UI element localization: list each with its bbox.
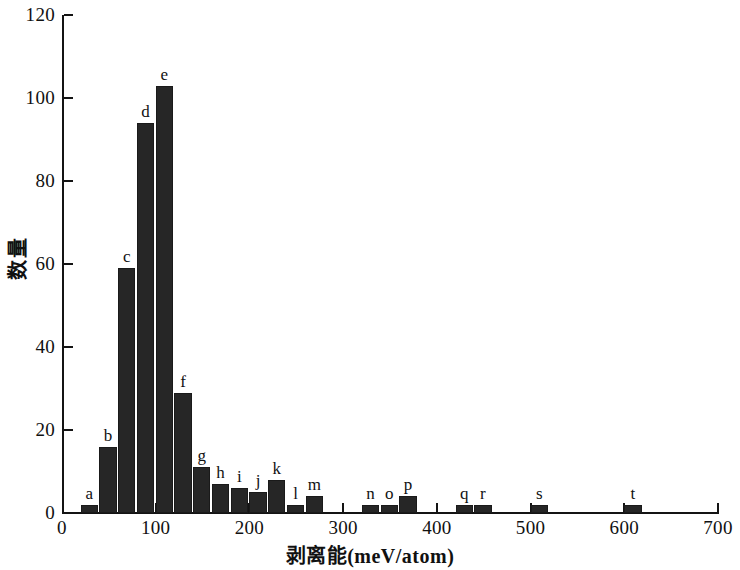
histogram-bar [81,505,98,513]
x-tick-mark [717,503,719,512]
histogram-bar [156,86,173,513]
y-axis-title: 数量 [2,228,31,288]
y-tick-label: 120 [0,5,55,24]
x-tick-label: 500 [496,518,566,538]
bar-label: g [182,447,222,464]
y-tick-mark [64,263,73,265]
x-tick-label: 100 [121,518,191,538]
y-tick-mark [64,97,73,99]
y-tick-mark [64,429,73,431]
histogram-bar [212,484,229,513]
histogram-bar [381,505,398,513]
bar-label: r [463,485,503,502]
histogram-bar [99,447,116,513]
x-tick-label: 400 [402,518,472,538]
y-tick-label: 20 [0,420,55,439]
histogram-bar [306,496,323,513]
x-tick-mark [342,503,344,512]
histogram-bar [231,488,248,513]
bar-label: k [257,460,297,477]
histogram-bar [137,123,154,513]
histogram-bar [287,505,304,513]
bar-label: f [163,373,203,390]
y-tick-mark [64,512,73,514]
histogram-bar [531,505,548,513]
histogram-bar [474,505,491,513]
y-tick-label: 40 [0,337,55,356]
x-tick-label: 300 [308,518,378,538]
y-tick-label: 100 [0,88,55,107]
x-tick-label: 200 [214,518,284,538]
exfoliation-energy-histogram: 020406080100120 0100200300400500600700 a… [0,0,740,570]
y-tick-mark [64,14,73,16]
histogram-bar [399,496,416,513]
histogram-bar [362,505,379,513]
bar-label: p [388,476,428,493]
bar-label: e [144,66,184,83]
histogram-bar [249,492,266,513]
bar-label: m [294,476,334,493]
x-tick-label: 700 [683,518,740,538]
y-tick-mark [64,346,73,348]
x-axis-title: 剥离能(meV/atom) [0,540,740,569]
x-tick-label: 600 [589,518,659,538]
y-tick-label: 80 [0,171,55,190]
bar-label: s [519,485,559,502]
histogram-bar [624,505,641,513]
y-tick-mark [64,180,73,182]
histogram-bar [118,268,135,513]
x-tick-mark [436,503,438,512]
bar-label: t [613,485,653,502]
histogram-bar [456,505,473,513]
x-tick-label: 0 [27,518,97,538]
